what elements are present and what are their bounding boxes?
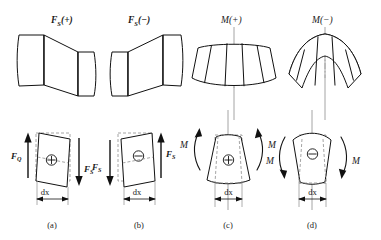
fs-negative-suffix: (−): [138, 15, 150, 26]
caption-b: (b): [134, 220, 144, 230]
moment-label-left-d: M: [265, 156, 275, 166]
force-label-left-a: FQ: [10, 151, 22, 162]
sign-plus-a: [46, 155, 56, 165]
moment-label-left-c: M: [179, 140, 189, 150]
svg-text:FS(−): FS(−): [127, 15, 150, 27]
label-fs-positive: FS(+): [50, 15, 73, 27]
force-arrow-left-a: [24, 133, 31, 179]
label-m-negative: M(−): [311, 15, 333, 26]
force-arrow-right-a: [75, 138, 82, 186]
dx-label-a: dx: [41, 187, 50, 197]
sign-plus-c: [223, 155, 233, 165]
force-label-left-b: FS: [91, 162, 102, 173]
dx-label-c: dx: [224, 187, 233, 197]
dx-label-b: dx: [133, 187, 142, 197]
panel-b: FS FS dx (b): [91, 133, 176, 231]
bending-negative-shape: [289, 27, 361, 120]
dx-label-d: dx: [308, 187, 317, 197]
panel-a: FQ FS dx (a): [10, 133, 94, 231]
moment-arrow-right-c: [255, 128, 263, 170]
panel-c: M M dx (c): [179, 110, 277, 230]
fs-positive-suffix: (+): [61, 15, 73, 26]
force-label-right-b: FS: [165, 149, 176, 160]
shear-deformation-positive-shape: [17, 35, 96, 96]
moment-label-right-d: M: [351, 156, 361, 166]
caption-d: (d): [307, 220, 317, 230]
dimension-dx-c: dx: [214, 187, 243, 201]
force-arrow-right-b: [157, 133, 164, 179]
caption-a: (a): [47, 220, 57, 230]
m-positive-suffix: (+): [229, 15, 242, 26]
label-m-positive: M(+): [220, 15, 242, 26]
moment-arrow-left-c: [194, 128, 202, 170]
label-fs-negative: FS(−): [127, 15, 150, 27]
svg-text:FS(+): FS(+): [50, 15, 73, 27]
moment-arrow-right-d: [339, 137, 347, 179]
panel-d: M M dx (d): [265, 110, 361, 230]
m-negative-suffix: (−): [320, 15, 333, 26]
dimension-dx-b: dx: [123, 187, 156, 201]
dimension-dx-a: dx: [36, 187, 69, 201]
caption-c: (c): [223, 220, 233, 230]
moment-label-right-c: M: [267, 140, 277, 150]
bending-positive-shape: [192, 27, 276, 120]
svg-text:M(+): M(+): [220, 15, 242, 26]
beam-sign-convention-figure: FS(+) FS(−) M(+) M(−): [0, 0, 381, 240]
moment-arrow-left-d: [279, 137, 287, 179]
shear-deformation-negative-shape: [110, 35, 183, 96]
force-arrow-left-b: [106, 140, 113, 186]
dimension-dx-d: dx: [298, 187, 327, 201]
svg-text:M(−): M(−): [311, 15, 333, 26]
